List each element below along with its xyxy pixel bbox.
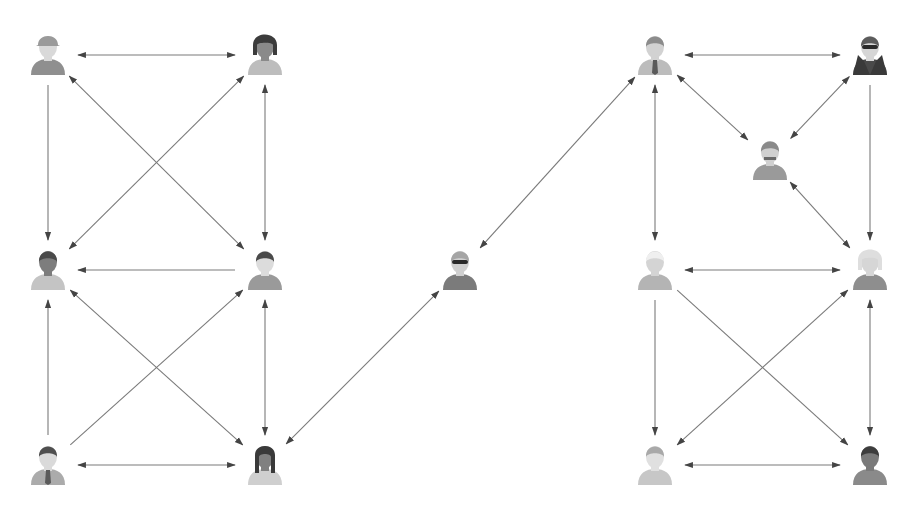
network-diagram <box>0 0 918 512</box>
edge-R2-R3 <box>791 77 850 139</box>
edge-L6-C <box>286 291 439 444</box>
person-jacket-man-icon <box>248 251 282 290</box>
nodes-layer <box>31 35 887 486</box>
node-R1[interactable] <box>638 36 672 75</box>
edge-line <box>286 291 439 444</box>
person-woman-long-hair-icon <box>248 446 282 485</box>
person-white-hair-icon <box>638 251 672 290</box>
node-R6[interactable] <box>638 446 672 485</box>
edge-line <box>791 77 850 139</box>
node-R5[interactable] <box>853 250 887 291</box>
edge-R1-R3 <box>677 75 748 140</box>
person-businessman-tie-icon <box>638 36 672 75</box>
node-R3[interactable] <box>753 141 787 180</box>
person-woman-bun-icon <box>638 446 672 485</box>
node-L3[interactable] <box>31 251 65 290</box>
person-woman-bob-icon <box>248 35 282 76</box>
person-sunglasses-icon <box>443 251 477 290</box>
node-L4[interactable] <box>248 251 282 290</box>
edge-C-R1 <box>480 77 635 248</box>
node-C[interactable] <box>443 251 477 290</box>
node-R2[interactable] <box>853 36 887 75</box>
node-L2[interactable] <box>248 35 282 76</box>
person-spy-icon <box>853 36 887 75</box>
node-R4[interactable] <box>638 251 672 290</box>
person-dark-man-icon <box>31 251 65 290</box>
edge-R3-R5 <box>790 182 850 248</box>
edge-line <box>677 75 748 140</box>
person-curly-woman-icon <box>853 250 887 291</box>
person-dark-man-icon <box>853 446 887 485</box>
node-L6[interactable] <box>248 446 282 485</box>
person-mustache-icon <box>753 141 787 180</box>
edge-line <box>480 77 635 248</box>
person-suit-tie-icon <box>31 446 65 485</box>
edge-line <box>790 182 850 248</box>
person-cap-icon <box>31 36 65 75</box>
node-L1[interactable] <box>31 36 65 75</box>
node-L5[interactable] <box>31 446 65 485</box>
node-R7[interactable] <box>853 446 887 485</box>
